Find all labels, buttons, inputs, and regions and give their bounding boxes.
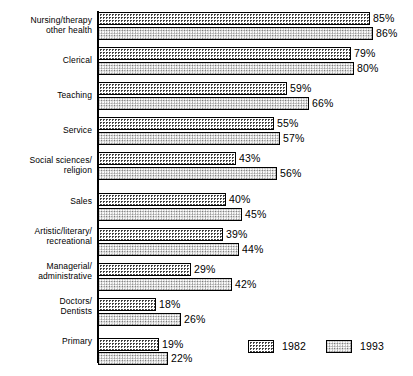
bar-1993	[98, 278, 232, 291]
category-label: Primary	[0, 336, 92, 346]
bar-1993	[98, 27, 373, 40]
bar-value-label: 56%	[280, 167, 302, 180]
category-label: Nursing/therapy other health	[0, 15, 92, 35]
bar-value-label: 66%	[312, 97, 334, 110]
category-label: Doctors/ Dentists	[0, 296, 92, 316]
category-label: Service	[0, 125, 92, 135]
category-label: Sales	[0, 196, 92, 206]
bar-1993	[98, 352, 168, 365]
bar-value-label: 39%	[226, 228, 248, 241]
bar-1982	[98, 47, 351, 60]
bar-value-label: 26%	[184, 313, 206, 326]
bar-value-label: 22%	[171, 352, 193, 365]
bar-value-label: 40%	[229, 193, 251, 206]
bar-1982	[98, 12, 370, 25]
bar-1993	[98, 167, 277, 180]
legend-swatch-1993	[326, 340, 352, 353]
bar-1993	[98, 132, 280, 145]
bar-value-label: 42%	[235, 278, 257, 291]
bar-value-label: 85%	[373, 12, 395, 25]
bar-1982	[98, 298, 156, 311]
legend-label-1982: 1982	[282, 339, 306, 354]
bar-1993	[98, 62, 354, 75]
legend-swatch-1982	[248, 340, 274, 353]
bar-1982	[98, 152, 236, 165]
bar-1982	[98, 263, 191, 276]
bar-value-label: 29%	[194, 263, 216, 276]
legend: 1982 1993	[248, 339, 408, 357]
bar-1993	[98, 97, 309, 110]
bar-value-label: 59%	[290, 82, 312, 95]
bar-value-label: 86%	[376, 27, 398, 40]
category-label: Clerical	[0, 55, 92, 65]
bar-value-label: 45%	[245, 208, 267, 221]
bar-1982	[98, 82, 287, 95]
category-label: Artistic/literary/ recreational	[0, 226, 92, 246]
legend-label-1993: 1993	[360, 339, 384, 354]
bar-1982	[98, 117, 274, 130]
category-label: Teaching	[0, 90, 92, 100]
bar-1993	[98, 208, 242, 221]
bar-value-label: 44%	[242, 243, 264, 256]
bar-value-label: 19%	[162, 338, 184, 351]
category-label: Social sciences/ religion	[0, 155, 92, 175]
bar-1982	[98, 338, 159, 351]
bar-1982	[98, 193, 226, 206]
bar-1993	[98, 313, 181, 326]
bar-value-label: 55%	[277, 117, 299, 130]
bar-value-label: 79%	[354, 47, 376, 60]
bar-value-label: 80%	[357, 62, 379, 75]
bar-1982	[98, 228, 223, 241]
bar-value-label: 18%	[159, 298, 181, 311]
grouped-bar-chart: Nursing/therapy other health Clerical Te…	[0, 0, 413, 376]
bar-value-label: 57%	[283, 132, 305, 145]
bar-value-label: 43%	[239, 152, 261, 165]
category-label: Managerial/ administrative	[0, 261, 92, 281]
bar-1993	[98, 243, 239, 256]
